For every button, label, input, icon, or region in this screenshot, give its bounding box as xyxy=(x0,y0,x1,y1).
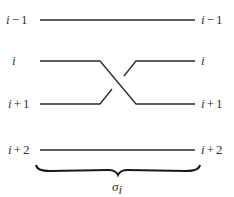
left-label-i-plus-1: i+1 xyxy=(8,96,29,111)
right-label-i-minus-1: i−1 xyxy=(201,12,222,27)
sigma-i-label: σi xyxy=(112,179,122,197)
under-strand-upper-segment xyxy=(124,61,195,76)
left-label-i: i xyxy=(12,53,16,68)
underbrace-icon xyxy=(36,165,200,175)
strand-i-minus-1: i−1 i−1 xyxy=(6,12,222,27)
left-label-i-minus-1: i−1 xyxy=(6,12,27,27)
strand-i-plus-2: i+2 i+2 xyxy=(8,142,222,157)
under-strand-lower-segment xyxy=(40,89,112,104)
over-strand-line xyxy=(40,61,195,104)
left-label-i-plus-2: i+2 xyxy=(8,142,29,157)
right-label-i: i xyxy=(201,53,205,68)
braid-diagram: i−1 i−1 i i i+1 i+1 i+2 i+2 σi xyxy=(0,0,234,197)
right-label-i-plus-2: i+2 xyxy=(201,142,222,157)
right-label-i-plus-1: i+1 xyxy=(201,96,222,111)
